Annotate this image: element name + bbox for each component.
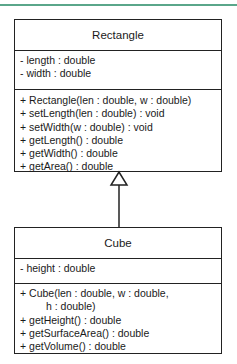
operation: + Cube(len : double, w : double, <box>20 287 216 300</box>
class-box-cube: Cube - height : double + Cube(len : doub… <box>14 227 222 354</box>
attribute: - height : double <box>20 262 216 275</box>
operation: + getHeight() : double <box>20 314 216 327</box>
operation-continuation: h : double) <box>20 300 216 313</box>
hollow-triangle-icon <box>111 172 127 185</box>
operation: + getVolume() : double <box>20 340 216 353</box>
attributes-section: - height : double <box>15 259 221 284</box>
operation: + getSurfaceArea() : double <box>20 327 216 340</box>
class-name: Cube <box>15 228 221 259</box>
operations-section: + Cube(len : double, w : double, h : dou… <box>15 284 221 356</box>
